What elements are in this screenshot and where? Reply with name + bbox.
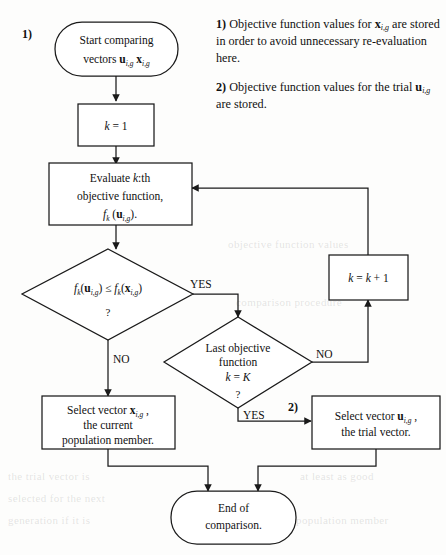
node-select-x-line3: population member. xyxy=(62,434,154,447)
node-end-line2: comparison. xyxy=(205,519,262,532)
node-evaluate-line2: objective function, xyxy=(77,190,163,203)
note-text-before: Objective function values for xyxy=(226,17,375,31)
node-start xyxy=(55,22,178,76)
note-item: 1) Objective function values for xi,g ar… xyxy=(216,16,440,66)
note-text-before: Objective function values for the trial xyxy=(226,80,415,94)
note-text-after: are stored. xyxy=(216,97,267,111)
node-compare-question: ? xyxy=(106,306,111,318)
node-last-objective-line3: k = K xyxy=(225,371,251,383)
node-start-line1: Start comparing xyxy=(80,34,154,47)
notes-panel: 1) Objective function values for xi,g ar… xyxy=(216,16,440,125)
edge-compare-yes-to-last xyxy=(193,294,238,317)
node-last-objective-line2: function xyxy=(219,356,258,368)
node-end xyxy=(171,491,296,544)
flowchart-page: objective function values comparison pro… xyxy=(0,0,446,555)
node-evaluate-line1: Evaluate k:th xyxy=(90,172,151,184)
note-lead: 2) xyxy=(216,80,226,94)
node-last-objective-line1: Last objective xyxy=(206,342,271,355)
edge-select-u-to-end xyxy=(258,449,376,491)
node-select-u xyxy=(312,396,440,449)
edge-label-last-yes: YES xyxy=(243,409,265,421)
edge-select-x-to-end xyxy=(108,449,208,491)
note-lead: 1) xyxy=(216,17,226,31)
node-init-label: k = 1 xyxy=(104,120,127,132)
edge-increment-to-evaluate xyxy=(192,188,368,255)
edge-label-compare-no: NO xyxy=(113,353,130,365)
node-last-objective-question: ? xyxy=(236,388,241,400)
edge-label-last-no: NO xyxy=(316,348,333,360)
marker-one: 1) xyxy=(22,27,32,41)
note-variable-subscript: i,g xyxy=(422,86,430,95)
node-end-line1: End of xyxy=(218,502,249,514)
node-compare-decision xyxy=(22,249,193,340)
marker-two: 2) xyxy=(288,400,298,414)
note-item: 2) Objective function values for the tri… xyxy=(216,79,440,113)
node-select-x-line2: the current xyxy=(83,419,133,431)
edge-label-compare-yes: YES xyxy=(190,278,212,290)
note-variable-subscript: i,g xyxy=(381,23,389,32)
node-select-u-line2: the trial vector. xyxy=(341,426,410,438)
node-increment-label: k = k + 1 xyxy=(348,272,389,284)
